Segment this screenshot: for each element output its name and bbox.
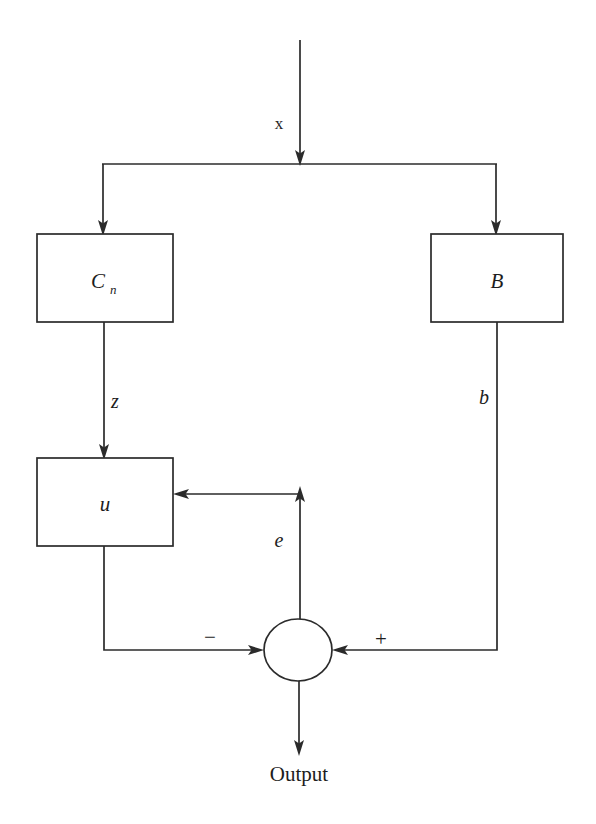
summing-junction-circle[interactable] (264, 619, 332, 681)
signal-label-z: z (110, 390, 119, 412)
signal-label-e: e (275, 529, 284, 551)
wire-input-x (295, 40, 305, 166)
wire-split-to-b (491, 164, 501, 236)
block-u-label: u (100, 492, 111, 516)
wire-sum-to-output (294, 681, 304, 756)
wire-sum-to-u-feedback (173, 486, 305, 619)
block-cn[interactable]: C n (37, 234, 173, 322)
sign-label-plus: + (375, 627, 387, 651)
wire-b-to-sum (332, 322, 497, 655)
output-label: Output (270, 762, 329, 786)
block-cn-label: C (91, 269, 106, 293)
wire-cn-to-u (99, 322, 109, 460)
wire-u-to-sum (104, 546, 264, 655)
block-diagram-canvas: C n B u x z b e − + Output (0, 0, 596, 824)
signal-label-x: x (275, 114, 284, 133)
signal-label-b: b (479, 386, 489, 408)
wire-split-to-cn (98, 164, 108, 236)
block-b-label: B (491, 269, 504, 293)
summing-junction[interactable] (264, 619, 332, 681)
sign-label-minus: − (204, 625, 216, 649)
block-diagram-svg: C n B u x z b e − + Output (0, 0, 596, 824)
block-cn-subscript: n (110, 282, 117, 297)
block-b[interactable]: B (431, 234, 563, 322)
block-u[interactable]: u (37, 458, 173, 546)
